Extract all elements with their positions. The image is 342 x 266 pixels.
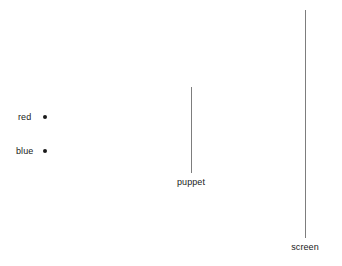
light-source-blue-label: blue xyxy=(16,146,33,156)
screen-line[interactable] xyxy=(305,10,306,238)
puppet-line[interactable] xyxy=(191,87,192,173)
diagram-canvas: red blue puppet screen xyxy=(0,0,342,266)
light-source-red-dot[interactable] xyxy=(43,115,47,119)
light-source-blue-dot[interactable] xyxy=(43,149,47,153)
screen-label: screen xyxy=(286,242,324,252)
light-source-red-label: red xyxy=(18,112,31,122)
puppet-label: puppet xyxy=(171,177,211,187)
